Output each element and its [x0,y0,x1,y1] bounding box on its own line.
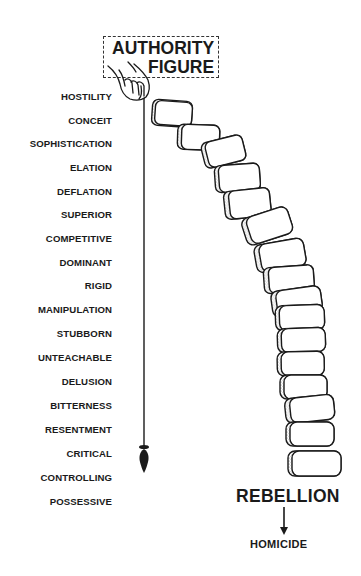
diagram: AUTHORITY FIGURE HOSTILITYCONCEITSOPHIST… [0,0,361,576]
plumb-bob-icon [139,445,149,473]
hand-holding-plumb-line-icon [108,62,149,100]
outcome-rebellion: REBELLION [236,486,340,507]
arrow-down-icon [280,507,288,535]
outcome-homicide: HOMICIDE [250,538,307,550]
stacked-stone-blocks-icon [151,99,341,476]
